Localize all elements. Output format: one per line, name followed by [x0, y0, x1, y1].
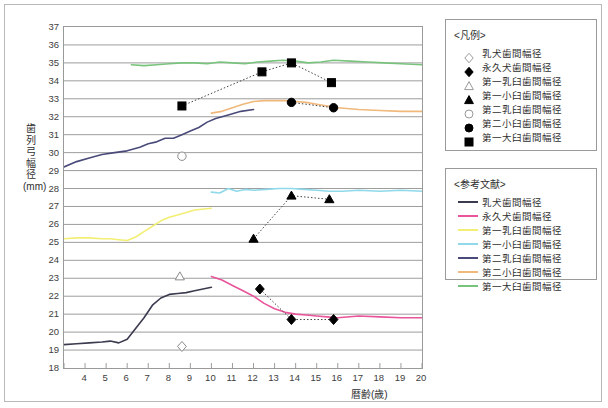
legend-reference-item[interactable]: 乳犬歯間幅径: [456, 195, 596, 209]
data-marker: [175, 272, 184, 280]
marker-connector: [182, 63, 332, 106]
x-tick-label: 6: [115, 373, 137, 382]
legend-references-title: <参考文献>: [454, 176, 596, 191]
x-tick-label: 7: [136, 373, 158, 382]
y-tick-label: 21: [33, 309, 59, 318]
plot-canvas: [63, 26, 423, 369]
legend-symbol-label: 第一小臼歯間幅径: [482, 88, 562, 102]
x-tick-label: 20: [410, 373, 432, 382]
y-tick-label: 22: [33, 291, 59, 300]
y-tick-label: 18: [33, 363, 59, 372]
data-marker: [178, 152, 186, 160]
figure-frame: 歯列弓幅径(mm) 暦齢(歳) 181920212223242526272829…: [4, 4, 602, 402]
legend-reference-label: 永久犬歯間幅径: [482, 209, 552, 223]
data-marker: [329, 315, 338, 325]
x-tick-label: 8: [157, 373, 179, 382]
data-marker: [327, 79, 335, 87]
legend-reference-item[interactable]: 第一大臼歯間幅径: [456, 279, 596, 293]
legend-symbol-label: 永久犬歯間幅径: [482, 60, 552, 74]
open-triangle-icon: [456, 74, 482, 88]
line-swatch-icon: [456, 251, 482, 265]
data-marker: [287, 98, 295, 106]
legend-reference-label: 乳犬歯間幅径: [482, 195, 542, 209]
y-tick-label: 36: [33, 40, 59, 49]
filled-circle-icon: [456, 116, 482, 130]
legend-symbol-item[interactable]: 第二小臼歯間幅径: [456, 116, 596, 130]
data-marker: [287, 191, 296, 199]
filled-triangle-icon: [456, 88, 482, 102]
data-marker: [329, 104, 337, 112]
x-tick-label: 14: [284, 373, 306, 382]
y-tick-label: 31: [33, 130, 59, 139]
filled-diamond-icon: [456, 60, 482, 74]
data-marker: [287, 59, 295, 67]
x-tick-label: 11: [220, 373, 242, 382]
legend-symbol-label: 第一乳臼歯間幅径: [482, 74, 562, 88]
y-tick-label: 35: [33, 58, 59, 67]
reference-line: [211, 189, 422, 193]
legend-symbols: <凡例> 乳犬歯間幅径永久犬歯間幅径第一乳臼歯間幅径第一小臼歯間幅径第二乳臼歯間…: [445, 19, 597, 151]
x-tick-label: 9: [178, 373, 200, 382]
line-swatch-icon: [456, 209, 482, 223]
legend-reference-item[interactable]: 第一小臼歯間幅径: [456, 237, 596, 251]
open-circle-icon: [456, 102, 482, 116]
y-tick-label: 26: [33, 219, 59, 228]
marker-connector: [254, 196, 330, 239]
legend-symbol-label: 乳犬歯間幅径: [482, 46, 542, 60]
legend-symbol-item[interactable]: 第二乳臼歯間幅径: [456, 102, 596, 116]
y-tick-label: 34: [33, 76, 59, 85]
reference-line: [211, 276, 422, 317]
y-tick-label: 24: [33, 255, 59, 264]
legend-symbol-item[interactable]: 永久犬歯間幅径: [456, 60, 596, 74]
y-tick-label: 19: [33, 345, 59, 354]
legend-symbols-rows: 乳犬歯間幅径永久犬歯間幅径第一乳臼歯間幅径第一小臼歯間幅径第二乳臼歯間幅径第二小…: [446, 46, 596, 144]
legend-reference-item[interactable]: 第二小臼歯間幅径: [456, 265, 596, 279]
data-marker: [178, 102, 186, 110]
legend-symbol-label: 第二乳臼歯間幅径: [482, 102, 562, 116]
legend-reference-label: 第二乳臼歯間幅径: [482, 251, 562, 265]
y-tick-label: 23: [33, 273, 59, 282]
x-tick-label: 4: [73, 373, 95, 382]
data-marker: [258, 68, 266, 76]
line-swatch-icon: [456, 223, 482, 237]
legend-reference-label: 第一大臼歯間幅径: [482, 279, 562, 293]
legend-symbol-item[interactable]: 第一小臼歯間幅径: [456, 88, 596, 102]
y-tick-label: 20: [33, 327, 59, 336]
legend-symbol-label: 第一大臼歯間幅径: [482, 130, 562, 144]
y-tick-label: 30: [33, 148, 59, 157]
legend-symbol-label: 第二小臼歯間幅径: [482, 116, 562, 130]
legend-references: <参考文献> 乳犬歯間幅径永久犬歯間幅径第一乳臼歯間幅径第一小臼歯間幅径第二乳臼…: [445, 168, 597, 280]
x-tick-label: 18: [368, 373, 390, 382]
x-tick-label: 15: [305, 373, 327, 382]
legend-symbol-item[interactable]: 乳犬歯間幅径: [456, 46, 596, 60]
legend-reference-item[interactable]: 第二乳臼歯間幅径: [456, 251, 596, 265]
x-tick-label: 10: [199, 373, 221, 382]
x-tick-label: 16: [326, 373, 348, 382]
chart-area: 歯列弓幅径(mm) 暦齢(歳) 181920212223242526272829…: [5, 5, 435, 403]
legend-symbol-item[interactable]: 第一乳臼歯間幅径: [456, 74, 596, 88]
y-tick-label: 27: [33, 201, 59, 210]
legend-reference-item[interactable]: 第一乳臼歯間幅径: [456, 223, 596, 237]
legend-reference-label: 第一小臼歯間幅径: [482, 237, 562, 251]
x-tick-label: 19: [389, 373, 411, 382]
y-tick-label: 37: [33, 22, 59, 31]
legend-symbol-item[interactable]: 第一大臼歯間幅径: [456, 130, 596, 144]
legend-reference-label: 第一乳臼歯間幅径: [482, 223, 562, 237]
y-tick-label: 29: [33, 166, 59, 175]
line-swatch-icon: [456, 265, 482, 279]
line-swatch-icon: [456, 237, 482, 251]
y-tick-label: 25: [33, 237, 59, 246]
x-axis-title: 暦齢(歳): [351, 386, 388, 401]
open-diamond-icon: [456, 46, 482, 60]
y-tick-label: 32: [33, 112, 59, 121]
legend-reference-label: 第二小臼歯間幅径: [482, 265, 562, 279]
x-tick-label: 5: [94, 373, 116, 382]
legend-reference-item[interactable]: 永久犬歯間幅径: [456, 209, 596, 223]
line-swatch-icon: [456, 195, 482, 209]
y-tick-label: 33: [33, 94, 59, 103]
legend-symbols-title: <凡例>: [454, 27, 596, 42]
y-tick-label: 28: [33, 184, 59, 193]
filled-square-icon: [456, 130, 482, 144]
x-tick-label: 12: [242, 373, 264, 382]
reference-line: [64, 110, 254, 167]
